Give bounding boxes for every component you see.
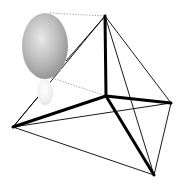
orbital-large-lobe: [22, 13, 68, 79]
bond-center-bottom: [106, 96, 154, 175]
tetrahedron-orbital-diagram: [0, 0, 179, 189]
hybrid-orbital: [22, 13, 68, 105]
edge-right-bottom: [154, 103, 171, 175]
bond-center-right: [106, 96, 171, 103]
orbital-small-lobe: [37, 79, 53, 105]
bond-center-top: [105, 16, 106, 96]
projection-line-top: [50, 13, 105, 16]
diagram-canvas: [0, 0, 179, 189]
projection-line-center: [52, 78, 106, 96]
edge-top-right: [105, 16, 171, 103]
bond-center-left: [13, 96, 106, 127]
edge-left-right: [13, 103, 171, 127]
edge-left-bottom: [13, 127, 154, 175]
edge-left-top-front-segment: [66, 16, 105, 61]
